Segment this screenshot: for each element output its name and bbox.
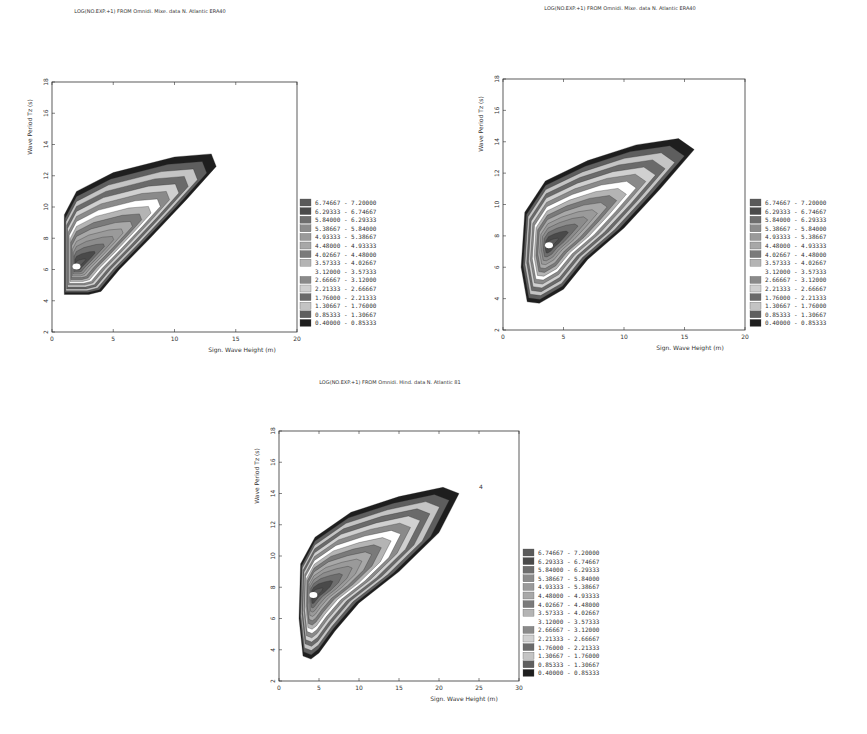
x-tick-label: 15 (681, 333, 689, 340)
legend-label: 4.48000 - 4.93333 (315, 242, 377, 249)
y-tick-label: 4 (493, 297, 500, 301)
legend-label: 5.38667 - 5.84000 (315, 225, 377, 232)
y-tick-label: 2 (42, 330, 49, 334)
chart-panel-2: LOG(NO.EXP.+1) FROM Omnidi. Mixe. data N… (477, 5, 827, 352)
contour-bands (64, 154, 216, 295)
legend-label: 3.57333 - 4.02667 (315, 259, 377, 266)
y-tick-label: 6 (493, 265, 500, 269)
legend-label: 6.29333 - 6.74667 (765, 208, 827, 215)
y-tick-label: 8 (42, 236, 49, 240)
x-tick-label: 5 (562, 333, 566, 340)
legend-swatch (750, 319, 761, 326)
y-axis-label: Wave Period Tz (s) (477, 96, 484, 152)
x-tick-label: 10 (355, 684, 363, 691)
legend-swatch (523, 644, 534, 651)
x-tick-label: 5 (111, 335, 115, 342)
figure-canvas: LOG(NO.EXP.+1) FROM Omnidi. Mixe. data N… (0, 0, 867, 734)
legend-swatch (300, 242, 311, 249)
y-axis-label: Wave Period Tz (s) (26, 99, 33, 155)
legend-label: 6.29333 - 6.74667 (538, 558, 600, 565)
legend-label: 2.21333 - 2.66667 (765, 285, 827, 292)
y-tick-label: 4 (269, 648, 276, 652)
legend-swatch (523, 652, 534, 659)
legend-label: 4.93333 - 5.38667 (765, 233, 827, 240)
legend-swatch (750, 199, 761, 206)
legend-label: 0.40000 - 0.85333 (765, 319, 827, 326)
legend-swatch (750, 285, 761, 292)
chart-annotation: 4 (479, 483, 483, 490)
chart-title: LOG(NO.EXP.+1) FROM Omnidi. Mixe. data N… (74, 8, 225, 14)
y-tick-label: 12 (493, 169, 500, 177)
legend-label: 0.85333 - 1.30667 (538, 661, 600, 668)
legend-swatch (523, 592, 534, 599)
contour-peak (545, 242, 553, 248)
y-tick-label: 12 (42, 172, 49, 180)
y-tick-label: 14 (493, 138, 500, 146)
legend-swatch (750, 268, 761, 275)
y-tick-label: 14 (42, 141, 49, 149)
legend-label: 4.02667 - 4.48000 (315, 251, 377, 258)
legend-swatch (750, 242, 761, 249)
legend-swatch (300, 276, 311, 283)
chart-title: LOG(NO.EXP.+1) FROM Omnidi. Mixe. data N… (544, 5, 695, 11)
legend: 6.74667 - 7.200006.29333 - 6.746675.8400… (300, 199, 377, 326)
y-axis-label: Wave Period Tz (s) (253, 448, 260, 504)
y-tick-label: 12 (269, 521, 276, 529)
legend-label: 5.38667 - 5.84000 (538, 575, 600, 582)
legend-swatch (750, 311, 761, 318)
x-tick-label: 20 (741, 333, 749, 340)
legend-swatch (750, 208, 761, 215)
legend-swatch (750, 251, 761, 258)
x-tick-label: 10 (620, 333, 628, 340)
legend-label: 3.12000 - 3.57333 (538, 618, 600, 625)
y-tick-label: 18 (42, 78, 49, 86)
y-tick-label: 18 (493, 75, 500, 83)
legend-swatch (300, 285, 311, 292)
y-tick-label: 16 (269, 458, 276, 466)
x-tick-label: 5 (317, 684, 321, 691)
y-tick-label: 8 (493, 234, 500, 238)
contour-peak (309, 592, 317, 598)
x-tick-label: 20 (293, 335, 301, 342)
y-tick-label: 8 (269, 585, 276, 589)
y-tick-label: 2 (269, 679, 276, 683)
legend-swatch (523, 601, 534, 608)
legend-label: 2.21333 - 2.66667 (315, 285, 377, 292)
legend-swatch (300, 302, 311, 309)
x-tick-label: 10 (171, 335, 179, 342)
y-tick-label: 6 (42, 267, 49, 271)
x-tick-label: 25 (475, 684, 483, 691)
legend-swatch (300, 259, 311, 266)
y-tick-label: 10 (269, 552, 276, 560)
legend-label: 5.84000 - 6.29333 (315, 216, 377, 223)
legend-swatch (300, 251, 311, 258)
legend-label: 3.57333 - 4.02667 (538, 609, 600, 616)
y-tick-label: 18 (269, 427, 276, 435)
y-tick-label: 4 (42, 299, 49, 303)
legend-label: 6.74667 - 7.20000 (315, 199, 377, 206)
y-tick-label: 10 (493, 201, 500, 209)
legend-swatch (750, 276, 761, 283)
legend-label: 4.02667 - 4.48000 (765, 251, 827, 258)
legend-swatch (750, 233, 761, 240)
legend-label: 2.66667 - 3.12000 (765, 276, 827, 283)
x-axis-label: Sign. Wave Height (m) (656, 344, 724, 352)
legend-label: 2.66667 - 3.12000 (315, 276, 377, 283)
x-tick-label: 0 (50, 335, 54, 342)
legend-swatch (523, 618, 534, 625)
legend-swatch (300, 294, 311, 301)
legend-swatch (300, 233, 311, 240)
legend-swatch (300, 199, 311, 206)
x-tick-label: 15 (232, 335, 240, 342)
x-tick-label: 15 (395, 684, 403, 691)
legend-swatch (523, 669, 534, 676)
legend-label: 4.48000 - 4.93333 (538, 592, 600, 599)
legend-label: 1.30667 - 1.76000 (765, 302, 827, 309)
legend-swatch (523, 558, 534, 565)
legend-swatch (750, 259, 761, 266)
legend-label: 4.93333 - 5.38667 (538, 583, 600, 590)
legend-swatch (750, 225, 761, 232)
x-tick-label: 20 (435, 684, 443, 691)
legend-swatch (300, 216, 311, 223)
legend-label: 3.57333 - 4.02667 (765, 259, 827, 266)
